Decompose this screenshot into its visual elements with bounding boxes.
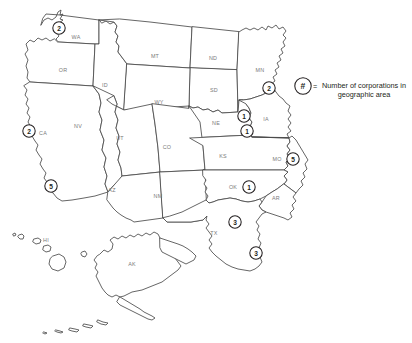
map-container: WA OR ID MT ND MN SD WY NE IA CA NV UT C… (0, 0, 412, 343)
state-shape-or[interactable] (25, 38, 95, 86)
state-label-ne: NE (212, 120, 220, 126)
marker-tx-south[interactable]: 3 (250, 247, 262, 259)
marker-tx-north[interactable]: 3 (229, 216, 241, 228)
state-label-hi: HI (43, 237, 49, 243)
state-shape-aleutians-1[interactable] (97, 320, 108, 325)
state-shape-nd[interactable] (190, 27, 239, 70)
marker-tx-north-value: 3 (233, 219, 237, 226)
state-outlines (13, 10, 308, 334)
state-shape-hi-small[interactable] (81, 251, 87, 257)
marker-wa[interactable]: 2 (53, 22, 65, 34)
state-label-mo: MO (272, 156, 281, 162)
state-label-mt: MT (151, 53, 160, 59)
state-shape-aleutians-5[interactable] (43, 332, 47, 334)
state-shape-ks[interactable] (190, 135, 290, 170)
state-label-nm: NM (154, 193, 163, 199)
marker-mo[interactable]: 5 (287, 153, 299, 165)
state-label-tx: TX (210, 230, 217, 236)
state-label-id: ID (102, 82, 108, 88)
legend-equals-sign: = (313, 82, 317, 91)
state-shape-hi-bigisland[interactable] (49, 254, 66, 271)
us-map-svg: WA OR ID MT ND MN SD WY NE IA CA NV UT C… (0, 0, 412, 343)
marker-wa-value: 2 (57, 25, 61, 32)
state-label-az: AZ (108, 187, 116, 193)
marker-ca-north-value: 2 (27, 128, 31, 135)
marker-ok[interactable]: 1 (243, 181, 255, 193)
marker-ca-south[interactable]: 5 (45, 180, 57, 192)
state-label-co: CO (163, 144, 172, 150)
state-label-ak: AK (128, 261, 136, 267)
state-label-mn: MN (256, 67, 265, 73)
state-label-ar: AR (272, 195, 280, 201)
state-shape-aleutians-3[interactable] (69, 328, 79, 332)
state-shape-wa[interactable] (41, 10, 99, 44)
legend-symbol: # (295, 78, 311, 94)
state-label-ca: CA (39, 130, 47, 136)
state-label-ks: KS (219, 153, 227, 159)
legend-description-line1: Number of corporations in (318, 81, 410, 90)
state-shape-hi-oahu[interactable] (13, 233, 16, 236)
state-label-wa: WA (72, 34, 81, 40)
state-shape-hi-molokai[interactable] (33, 238, 41, 244)
state-label-ia: IA (263, 116, 269, 122)
state-label-ut: UT (116, 135, 124, 141)
marker-ne-lower-value: 1 (245, 128, 249, 135)
marker-ca-south-value: 5 (49, 183, 53, 190)
state-label-wy: WY (154, 99, 163, 105)
state-label-nd: ND (209, 55, 217, 61)
marker-tx-south-value: 3 (254, 250, 258, 257)
state-shape-hi-kauai[interactable] (18, 234, 24, 239)
state-shape-ca[interactable] (24, 82, 108, 201)
marker-mn-value: 2 (267, 85, 271, 92)
marker-ne-lower[interactable]: 1 (241, 125, 253, 137)
state-label-sd: SD (210, 87, 218, 93)
state-label-or: OR (59, 67, 68, 73)
state-shape-hi-maui[interactable] (43, 245, 51, 252)
state-shape-aleutians-2[interactable] (83, 324, 93, 328)
marker-ne-upper[interactable]: 1 (238, 110, 250, 122)
marker-ca-north[interactable]: 2 (23, 125, 35, 137)
marker-ne-upper-value: 1 (242, 113, 246, 120)
marker-mo-value: 5 (291, 156, 295, 163)
state-shape-ak-peninsula[interactable] (117, 297, 155, 320)
marker-ok-value: 1 (247, 184, 251, 191)
legend-description-line2: geographic area (318, 90, 410, 99)
state-label-ok: OK (229, 184, 237, 190)
state-label-nv: NV (74, 123, 82, 129)
legend-hash-symbol: # (301, 81, 306, 91)
state-shape-aleutians-4[interactable] (55, 330, 63, 333)
marker-mn[interactable]: 2 (263, 82, 275, 94)
